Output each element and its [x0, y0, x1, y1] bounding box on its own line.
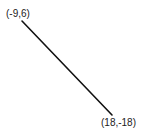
end-point-label: (18,-18) — [101, 118, 136, 128]
diagram-canvas: (-9,6) (18,-18) — [0, 0, 143, 139]
line-segment — [22, 21, 112, 115]
start-point-label: (-9,6) — [6, 9, 30, 19]
